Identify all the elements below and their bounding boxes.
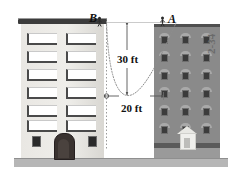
right-building-roof [154,24,220,27]
right-window [161,54,168,62]
left-window [27,69,57,81]
right-window [161,36,168,44]
right-window [161,90,168,98]
left-window [66,33,96,45]
label-point-a: A [168,12,176,27]
right-window [161,72,168,80]
left-window [66,69,96,81]
left-window [27,120,57,132]
label-problem-number: 2-34 [205,34,217,54]
right-window [182,36,189,44]
right-window [161,126,168,134]
right-window [161,108,168,116]
left-window [27,33,57,45]
right-window [203,108,210,116]
ground-line [14,158,228,167]
left-window [27,87,57,99]
origin-node [104,94,108,98]
left-window [66,120,96,132]
right-window [182,72,189,80]
left-window [66,51,96,63]
left-window [66,105,96,117]
right-window [182,90,189,98]
left-small-window [88,136,97,147]
right-building-door-panel [184,138,190,148]
left-window [27,51,57,63]
label-span-dimension: 20 ft [121,102,142,114]
figure-canvas: B A 30 ft 20 ft 2-34 [0,0,237,179]
left-window [66,87,96,99]
right-window [203,54,210,62]
left-building-door-panel [58,139,69,158]
right-window [203,126,210,134]
left-window [27,105,57,117]
right-window [182,108,189,116]
right-window [182,54,189,62]
label-point-b: B [89,11,97,26]
label-height-dimension: 30 ft [117,53,138,65]
right-window [203,72,210,80]
left-small-window [32,136,41,147]
right-window [203,90,210,98]
